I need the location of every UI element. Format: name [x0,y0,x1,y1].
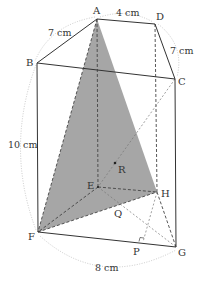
dimension-ad: 4 cm [116,7,139,18]
label-f: F [28,231,35,242]
label-a: A [92,5,101,16]
label-h: H [161,188,170,199]
label-c: C [178,76,186,87]
dimension-arc-ab [35,17,95,61]
dimension-dc: 7 cm [170,45,193,56]
dimension-ab: 7 cm [48,27,71,38]
edge-dh [155,24,157,192]
edge-ad [97,19,155,24]
label-d: D [156,11,164,22]
line-hp [143,192,157,242]
label-b: B [26,57,33,68]
edge-fg [38,232,176,247]
right-angle-mark [139,238,144,242]
prism-diagram: A B C D E F G H P Q R 4 cm 7 cm 7 cm 10 … [0,0,201,288]
point-r [114,162,117,165]
edge-cg [175,79,176,247]
label-q: Q [114,208,122,219]
dimension-bf: 10 cm [8,139,37,150]
label-p: P [133,246,140,257]
edge-hg [157,192,176,247]
label-g: G [178,247,186,258]
dimension-fg: 8 cm [95,262,118,273]
point-e [97,186,99,188]
label-r: R [118,164,126,175]
label-e: E [87,180,94,191]
